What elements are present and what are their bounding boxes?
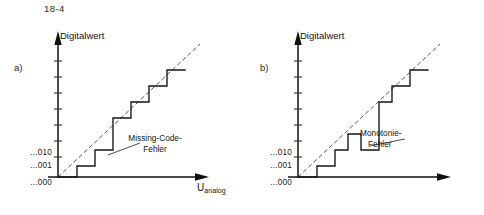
figure-sheet: 18-4 a) Digitalwert ...010 ...001 ...000 <box>0 0 484 215</box>
panel-a: a) Digitalwert ...010 ...001 ...000 <box>0 0 242 215</box>
panel-a-ideal-line <box>58 44 200 177</box>
panel-a-staircase <box>58 70 185 177</box>
panel-b-annotation-line2: Fehler <box>360 139 392 150</box>
panel-a-x-axis-arrow <box>195 173 209 180</box>
panel-a-y-axis-arrow <box>54 31 61 45</box>
panel-b-y-axis-arrow <box>294 31 301 45</box>
panel-a-x-axis-label-sub: analog <box>204 187 226 194</box>
panel-a-x-axis-label: Uanalog <box>197 182 226 194</box>
panel-b-ideal-line <box>298 44 440 177</box>
panel-b-annotation: Monotonie- Fehler <box>360 128 452 149</box>
panel-b: b) Digitalwert ...010 ...001 ...000 <box>242 0 484 215</box>
panel-a-annotation: Missing-Code- Fehler <box>112 133 198 154</box>
panel-a-annotation-line2: Fehler <box>143 144 167 154</box>
panel-a-annotation-line1: Missing-Code- <box>128 133 181 143</box>
panel-b-x-axis-arrow <box>437 173 451 180</box>
panel-b-staircase <box>298 70 428 177</box>
panel-b-plot <box>242 0 484 215</box>
panel-b-annotation-line1: Monotonie- <box>360 128 402 138</box>
